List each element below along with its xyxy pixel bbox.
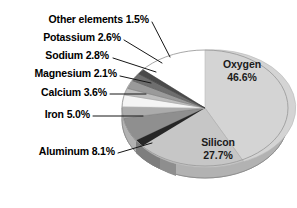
label-silicon-name: Silicon xyxy=(188,136,248,149)
label-potassium: Potassium 2.6% xyxy=(43,32,121,43)
label-silicon-value: 27.7% xyxy=(188,149,248,162)
leader-line-potassium xyxy=(124,40,162,63)
label-oxygen-name: Oxygen xyxy=(212,58,272,71)
label-magnesium: Magnesium 2.1% xyxy=(34,68,117,79)
label-oxygen-value: 46.6% xyxy=(212,71,272,84)
leader-line-other-elements xyxy=(152,22,170,57)
label-other-elements: Other elements 1.5% xyxy=(49,14,149,25)
pie-chart: Other elements 1.5% Potassium 2.6% Sodiu… xyxy=(0,0,297,208)
label-aluminum: Aluminum 8.1% xyxy=(39,146,115,157)
label-sodium: Sodium 2.8% xyxy=(45,50,109,61)
label-iron: Iron 5.0% xyxy=(45,109,90,120)
label-silicon: Silicon 27.7% xyxy=(188,136,248,162)
label-calcium: Calcium 3.6% xyxy=(41,87,107,98)
label-oxygen: Oxygen 46.6% xyxy=(212,58,272,84)
